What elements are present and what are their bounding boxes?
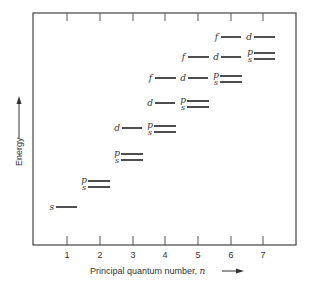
y-axis-arrow-icon (17, 96, 22, 138)
label-1s: s (49, 202, 54, 212)
bottom-ticks (67, 236, 263, 245)
x-axis-arrow-icon (222, 269, 244, 274)
label-4f: f (148, 73, 154, 83)
label-5p: p (180, 95, 186, 105)
x-axis-label: Principal quantum number, n (90, 266, 206, 276)
x-tick-label-7: 7 (260, 250, 265, 260)
x-tick-label-4: 4 (162, 250, 167, 260)
label-7p: p (247, 47, 253, 57)
x-tick-label-3: 3 (130, 250, 135, 260)
label-6d: d (213, 52, 219, 62)
x-tick-labels: 1 2 3 4 5 6 7 (64, 250, 265, 260)
label-4p: p (147, 120, 153, 130)
x-tick-label-5: 5 (195, 250, 200, 260)
label-5d: d (180, 73, 186, 83)
energy-levels (56, 37, 275, 207)
x-tick-label-2: 2 (97, 250, 102, 260)
label-7d: d (246, 32, 252, 42)
label-3d: d (114, 123, 120, 133)
x-tick-label-1: 1 (64, 250, 69, 260)
y-axis-label: Energy (14, 137, 24, 166)
label-6p: p (213, 70, 219, 80)
orbital-labels: s s p s p d s p d f s p d f s p d f s p … (49, 32, 253, 212)
label-6f: f (214, 32, 220, 42)
label-2p: p (81, 175, 87, 185)
top-ticks (67, 13, 263, 21)
x-tick-label-6: 6 (228, 250, 233, 260)
label-5f: f (181, 52, 187, 62)
label-4d: d (147, 98, 153, 108)
energy-level-diagram: 1 2 3 4 5 6 7 Principal quantum number, … (0, 0, 310, 287)
label-3p: p (114, 148, 120, 158)
plot-frame (33, 13, 296, 245)
